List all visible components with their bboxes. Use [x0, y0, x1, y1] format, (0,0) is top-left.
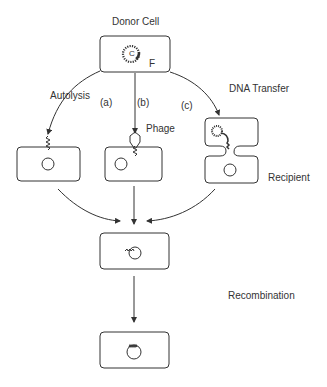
pathway-a-marker: (a) — [100, 98, 112, 108]
recipient-chromosome-icon — [115, 158, 127, 170]
recipient-chromosome-icon — [42, 158, 54, 170]
donor-plasmid-label: C — [129, 50, 135, 58]
arrow-autolysis — [48, 71, 100, 134]
dna-transfer-label: DNA Transfer — [229, 84, 289, 94]
arrow-dna-transfer — [170, 72, 219, 115]
phage-label: Phage — [146, 124, 175, 134]
dna-fragment-icon — [46, 136, 50, 150]
donor-cell — [100, 36, 170, 72]
pathway-b-marker: (b) — [137, 98, 149, 108]
autolysis-label: Autolysis — [50, 91, 90, 101]
donor-cell-label: Donor Cell — [112, 17, 159, 27]
gene-transfer-diagram: Donor Cell C F Autolysis (a) (b) (c) Pha… — [0, 0, 327, 387]
pathway-c-marker: (c) — [181, 101, 193, 111]
diagram-canvas — [0, 0, 327, 387]
recipient-cell-autolysis — [17, 147, 80, 181]
recombination-label: Recombination — [228, 291, 295, 301]
phage-head-icon — [130, 132, 140, 148]
arrow-right-to-merge — [147, 189, 215, 221]
recipient-with-donor-dna-cell — [100, 233, 169, 269]
recipient-label: Recipient — [268, 173, 310, 183]
recipient-chromosome-icon — [224, 164, 236, 176]
donor-chromosome-icon — [212, 126, 222, 136]
arrow-left-to-merge — [58, 189, 120, 221]
recombinant-chromosome-icon — [127, 345, 141, 359]
recipient-chromosome-icon — [129, 247, 141, 259]
f-factor-label: F — [149, 59, 155, 69]
donor-f-segment-icon — [136, 52, 139, 59]
recombinant-cell — [100, 332, 169, 368]
